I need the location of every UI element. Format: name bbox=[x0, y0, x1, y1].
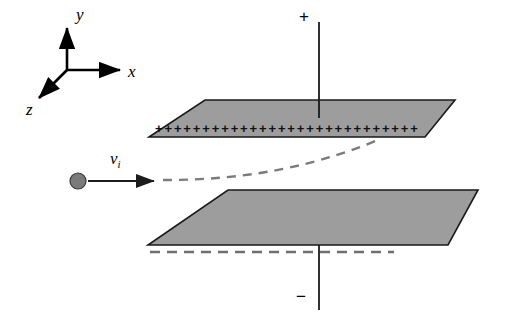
lower-plate bbox=[148, 190, 478, 245]
plate-charge-symbol: + bbox=[212, 121, 220, 136]
plate-charge-symbol: + bbox=[316, 121, 324, 136]
positive-terminal-label: + bbox=[299, 8, 309, 25]
plate-charge-symbol: + bbox=[259, 121, 267, 136]
velocity-symbol: v bbox=[110, 149, 118, 168]
plate-charge-symbol: + bbox=[278, 121, 286, 136]
particle-trajectory bbox=[163, 140, 378, 180]
plate-charge-symbol: + bbox=[164, 121, 172, 136]
plate-charge-symbol: + bbox=[155, 121, 163, 136]
plate-charge-symbol: + bbox=[174, 121, 182, 136]
z-axis-label: z bbox=[26, 101, 33, 118]
plate-charge-symbol: + bbox=[231, 121, 239, 136]
initial-velocity-label: vi bbox=[110, 150, 121, 170]
plate-charge-symbol: + bbox=[325, 121, 333, 136]
plate-charge-symbol: + bbox=[401, 121, 409, 136]
plate-charge-symbol: + bbox=[306, 121, 314, 136]
figure-canvas bbox=[0, 0, 513, 325]
z-axis-arrow bbox=[39, 70, 67, 98]
y-axis-label: y bbox=[76, 6, 84, 23]
plate-charge-symbol: + bbox=[287, 121, 295, 136]
plate-charge-symbol: + bbox=[250, 121, 258, 136]
plate-charge-symbol: + bbox=[193, 121, 201, 136]
coordinate-axes bbox=[39, 28, 120, 98]
plate-charge-symbol: + bbox=[372, 121, 380, 136]
velocity-subscript: i bbox=[118, 158, 121, 170]
plate-charge-symbol: + bbox=[335, 121, 343, 136]
plate-charge-symbol: + bbox=[354, 121, 362, 136]
plate-charge-symbol: + bbox=[297, 121, 305, 136]
physics-figure: y x z vi + − +++++++++++++++++++++++++++… bbox=[0, 0, 513, 325]
plate-charge-symbol: + bbox=[221, 121, 229, 136]
plate-charge-symbol: + bbox=[410, 121, 418, 136]
charged-particle bbox=[70, 173, 86, 189]
plate-charge-symbol: + bbox=[363, 121, 371, 136]
plate-charge-symbol: + bbox=[183, 121, 191, 136]
plate-charge-symbol: + bbox=[202, 121, 210, 136]
plate-charge-symbol: + bbox=[240, 121, 248, 136]
x-axis-label: x bbox=[128, 63, 136, 80]
plate-charge-symbol: + bbox=[391, 121, 399, 136]
upper-plate-charge-row: ++++++++++++++++++++++++++++ bbox=[155, 121, 418, 135]
negative-terminal-label: − bbox=[296, 288, 306, 305]
plate-charge-symbol: + bbox=[382, 121, 390, 136]
plate-charge-symbol: + bbox=[344, 121, 352, 136]
plate-charge-symbol: + bbox=[268, 121, 276, 136]
